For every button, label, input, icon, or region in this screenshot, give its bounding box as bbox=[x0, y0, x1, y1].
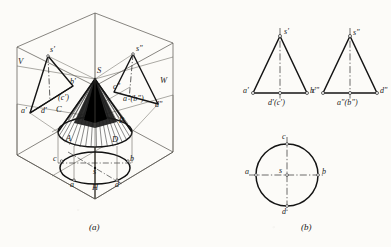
label-apex-S: S bbox=[97, 66, 101, 75]
ortho-top-c-label: c bbox=[282, 133, 286, 141]
label-base-D: D bbox=[112, 135, 118, 144]
label-top-a: a bbox=[70, 181, 74, 189]
ortho-top-b-label: b bbox=[322, 168, 326, 176]
label-front-aprime: a' bbox=[21, 107, 27, 115]
ortho-front-base-center-label: d'(c') bbox=[268, 99, 285, 107]
label-front-bprime: b' bbox=[70, 78, 76, 86]
label-v-plane: V bbox=[18, 57, 23, 66]
label-side-cdprime: c" bbox=[113, 83, 120, 91]
figure-canvas: V W H S A B C D s' a' b' d' (c') s" c" d… bbox=[0, 0, 391, 247]
ortho-side-right-label: d" bbox=[380, 87, 388, 95]
label-front-apex-sprime: s' bbox=[50, 46, 55, 54]
ortho-side-view bbox=[322, 28, 379, 100]
label-top-d: d bbox=[115, 181, 119, 189]
label-top-c: c bbox=[53, 155, 57, 163]
ortho-front-left-label: a' bbox=[243, 87, 249, 95]
ortho-top-d-label: d bbox=[282, 208, 286, 216]
label-base-C: C bbox=[56, 105, 62, 114]
ortho-top-s-label: s bbox=[279, 167, 282, 175]
ortho-top-view bbox=[249, 137, 325, 213]
label-side-ddprime: d" bbox=[155, 101, 163, 109]
ortho-top-a-label: a bbox=[245, 168, 249, 176]
label-top-b: b bbox=[130, 155, 134, 163]
label-base-A: A bbox=[66, 134, 71, 143]
ortho-front-view bbox=[252, 28, 309, 100]
ortho-front-apex-label: s' bbox=[284, 28, 289, 36]
technical-drawing-svg bbox=[0, 0, 391, 247]
label-side-apex-sdprime: s" bbox=[136, 45, 143, 53]
label-side-center-ab: a"(b") bbox=[123, 95, 144, 103]
label-h-plane: H bbox=[92, 183, 98, 192]
figure-caption-b: (b) bbox=[301, 222, 312, 232]
label-top-s: s bbox=[93, 168, 96, 176]
figure-caption-a: (a) bbox=[89, 222, 100, 232]
label-base-B: B bbox=[119, 116, 124, 125]
ortho-side-base-center-label: a"(b") bbox=[337, 99, 358, 107]
label-front-dprime: d' bbox=[41, 107, 47, 115]
label-w-plane: W bbox=[160, 76, 167, 85]
ortho-side-left-label: c" bbox=[312, 87, 319, 95]
ortho-side-apex-label: s" bbox=[353, 29, 360, 37]
label-front-cprime-hidden: (c') bbox=[58, 94, 69, 102]
front-projection-on-v bbox=[30, 55, 73, 113]
